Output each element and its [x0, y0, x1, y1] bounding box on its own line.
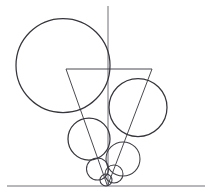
right-circle: [109, 79, 167, 137]
mid-left-circle: [68, 118, 110, 160]
geometric-figure: geometric-line-drawing: [0, 0, 211, 196]
large-circle: [16, 19, 110, 113]
drawing-canvas: geometric-line-drawing: [0, 0, 211, 196]
